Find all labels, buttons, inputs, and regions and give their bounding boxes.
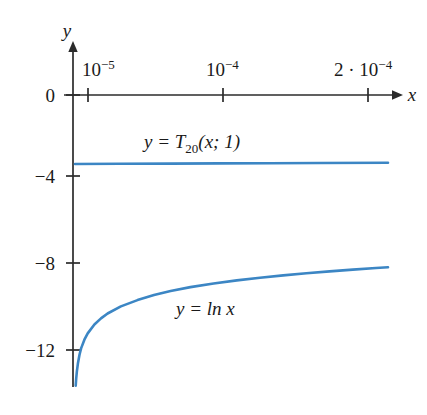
y-tick-label-minus-4: −4 [35, 166, 56, 187]
svg-text:y = T20(x; 1): y = T20(x; 1) [142, 131, 240, 156]
y-axis [68, 41, 77, 387]
y-tick-label-0: 0 [46, 85, 56, 106]
x-tick-label-1e-5: 10−5 [82, 57, 115, 80]
annotation-ln-label: y = ln x [174, 298, 235, 319]
x-axis [64, 90, 403, 100]
x-tick-2-base: 10 [206, 59, 225, 80]
y-tick-label-minus-12: −12 [25, 340, 55, 361]
y-tick-label-minus-8: −8 [35, 253, 55, 274]
x-tick-3-exponent: −4 [378, 57, 392, 72]
series-ln-polyline [76, 267, 388, 385]
taylor-label-rhs: (x; 1) [198, 131, 240, 153]
series-taylor-curve [75, 163, 388, 164]
svg-text:10−4: 10−4 [206, 57, 239, 80]
taylor-label-lhs: y = T [142, 131, 187, 152]
figure-container: y x 0 −4 −8 −12 10−5 10−4 2 · 10−4 [0, 0, 427, 415]
svg-text:2 · 10−4: 2 · 10−4 [334, 57, 393, 80]
logarithm-taylor-approximation-plot: y x 0 −4 −8 −12 10−5 10−4 2 · 10−4 [0, 0, 427, 415]
x-tick-2-exponent: −4 [225, 57, 239, 72]
taylor-label-subscript: 20 [185, 141, 198, 156]
svg-text:10−5: 10−5 [82, 57, 115, 80]
series-ln-curve [75, 199, 324, 389]
x-axis-label: x [407, 84, 417, 105]
x-tick-3-prefix: 2 · [334, 59, 359, 80]
y-axis-label: y [61, 20, 72, 41]
annotation-taylor-label: y = T20(x; 1) [142, 131, 240, 156]
ln-label-lhs: y = ln [174, 298, 226, 319]
ln-label-variable: x [225, 298, 235, 319]
x-tick-label-2e-4: 2 · 10−4 [334, 57, 393, 80]
x-tick-1-exponent: −5 [101, 57, 115, 72]
svg-text:y = ln x: y = ln x [174, 298, 235, 319]
x-tick-label-1e-4: 10−4 [206, 57, 239, 80]
x-tick-3-base: 10 [359, 59, 378, 80]
x-tick-1-base: 10 [82, 59, 101, 80]
